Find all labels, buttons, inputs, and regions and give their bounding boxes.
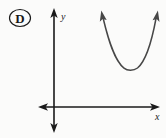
y-axis-label: y xyxy=(60,11,66,22)
answer-choice-figure: D y x xyxy=(0,0,166,138)
choice-letter-label: D xyxy=(15,11,24,26)
x-axis: x xyxy=(38,103,160,122)
choice-letter-badge: D xyxy=(10,10,31,27)
coordinate-plane-graphic: D y x xyxy=(0,0,166,138)
parabola-path xyxy=(103,19,156,71)
parabola-curve xyxy=(100,11,160,71)
x-axis-label: x xyxy=(154,111,160,122)
y-axis: y xyxy=(50,8,66,133)
